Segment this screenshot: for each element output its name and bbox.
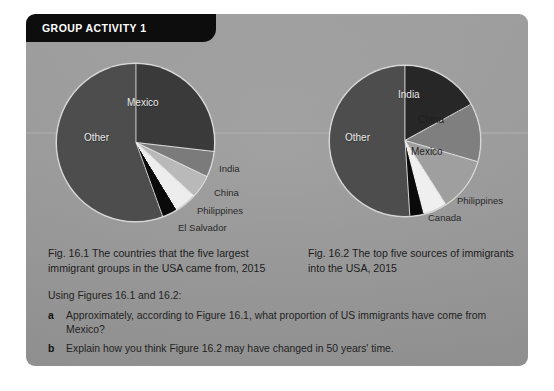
activity-tab: GROUP ACTIVITY 1: [26, 14, 216, 42]
pie-slice-separator: [404, 66, 405, 141]
pie-slice-separator: [135, 142, 163, 216]
pie-slice-separator: [404, 141, 410, 216]
pie-slice-separator: [135, 142, 193, 196]
question-item: b Explain how you think Figure 16.2 may …: [48, 342, 518, 357]
pie-2-label-canada: Canada: [428, 212, 461, 223]
pie-chart-1: Mexico Other India China Philippines El …: [26, 50, 301, 240]
pie-2-label-mexico: Mexico: [411, 146, 443, 157]
question-marker: a: [48, 309, 66, 338]
figure-1-caption: Fig. 16.1 The countries that the five la…: [48, 246, 298, 275]
question-marker: b: [48, 342, 66, 357]
pie-2-label-philippines: Philippines: [457, 195, 503, 206]
pie-2-label-china: China: [418, 114, 444, 125]
pie-1-label-philippines: Philippines: [197, 205, 243, 216]
figure-2: India China Mexico Other Philippines Can…: [294, 50, 528, 240]
questions-block: Using Figures 16.1 and 16.2: a Approxima…: [48, 289, 518, 360]
pie-slice-separator: [135, 142, 177, 210]
group-activity-panel: GROUP ACTIVITY 1 Mexico Other India Chin…: [26, 14, 528, 366]
pie-1-graphic: [57, 64, 214, 221]
pie-2-label-india: India: [398, 89, 420, 100]
questions-intro: Using Figures 16.1 and 16.2:: [48, 289, 518, 304]
pie-chart-2: India China Mexico Other Philippines Can…: [294, 50, 528, 240]
pie-1-label-india: India: [219, 163, 240, 174]
activity-tab-label: GROUP ACTIVITY 1: [42, 22, 146, 34]
pie-1-label-mexico: Mexico: [127, 97, 159, 108]
figure-1: Mexico Other India China Philippines El …: [26, 50, 301, 240]
question-item: a Approximately, according to Figure 16.…: [48, 309, 518, 338]
question-text: Explain how you think Figure 16.2 may ha…: [66, 342, 518, 357]
pie-1-label-other: Other: [84, 132, 109, 143]
question-text: Approximately, according to Figure 16.1,…: [66, 309, 518, 338]
pie-slice-separator: [135, 142, 213, 152]
pie-1-label-el-salvador: El Salvador: [178, 222, 227, 233]
pie-2-label-other: Other: [345, 132, 370, 143]
figure-2-caption: Fig. 16.2 The top five sources of immigr…: [308, 246, 523, 275]
pie-1-label-china: China: [214, 187, 239, 198]
pie-slice-separator: [135, 142, 206, 177]
